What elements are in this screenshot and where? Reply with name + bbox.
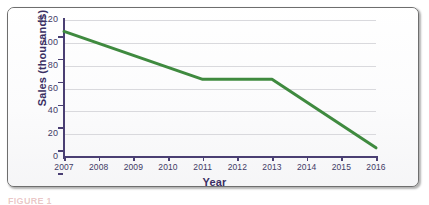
y-axis-title: Sales (thousands) xyxy=(36,8,48,108)
sales-line-series xyxy=(0,0,429,205)
x-axis-title: Year xyxy=(0,176,429,188)
figure-caption: FIGURE 1 xyxy=(8,196,158,205)
figure-container: 020406080100$120 20072008200920102011201… xyxy=(0,0,429,205)
